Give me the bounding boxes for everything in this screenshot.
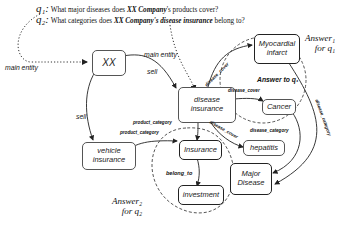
edge-label-main-entity-1: main entity [5, 64, 38, 71]
node-major-disease[interactable]: Major Disease [230, 163, 272, 195]
edge-label-belong-to: belong_to [166, 170, 192, 176]
answer1-label: Answer₁ for q₁ [305, 33, 335, 53]
node-myocardial-infarct[interactable]: Myocardial infarct [254, 34, 300, 64]
answer-to-q1-label: Answer to q₁ [257, 76, 298, 83]
edge-label-sell-1: sell [147, 68, 157, 75]
edge-label-disease-category-1: disease_category [250, 128, 289, 133]
edge-label-sell-2: sell [76, 113, 86, 120]
question-2: q₂: What categories does XX Company's di… [36, 13, 245, 25]
q2-entity: XX Company's disease insurance [114, 17, 213, 25]
node-xx[interactable]: XX [92, 50, 126, 76]
answer1-line2: for q₁ [305, 43, 335, 53]
edge-label-product-category-1: product_category [133, 120, 172, 125]
node-vehicle-insurance[interactable]: vehicle insurance [82, 142, 136, 170]
edge-label-product-category-2: product_category [120, 130, 159, 135]
edge-label-disease-cover-2: disease_cover [228, 88, 260, 93]
node-insurance[interactable]: Insurance [179, 140, 222, 160]
q2-text-after: belong to? [213, 17, 245, 25]
edge-label-main-entity-2: main entity [144, 51, 177, 58]
node-cancer[interactable]: Cancer [262, 99, 296, 115]
answer1-line1: Answer₁ [305, 33, 335, 43]
answer2-line1: Answer₂ [112, 196, 142, 206]
node-hepatitis[interactable]: hepatitis [243, 140, 285, 156]
answer2-line2: for q₂ [112, 206, 142, 216]
answer2-label: Answer₂ for q₂ [112, 196, 142, 216]
node-investment[interactable]: investment [178, 185, 224, 205]
q2-text: What categories does [49, 17, 114, 25]
q2-symbol: q₂: [36, 13, 49, 25]
